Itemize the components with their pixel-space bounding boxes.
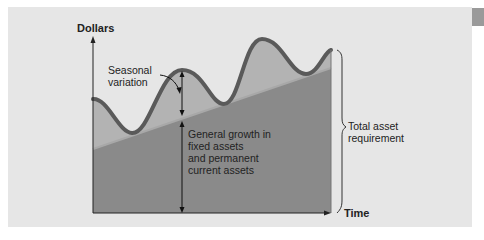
- y-axis-arrow-icon: [91, 36, 96, 43]
- brace-icon: [337, 50, 346, 213]
- y-axis-label: Dollars: [77, 22, 114, 34]
- total-asset-label: Total asset requirement: [348, 120, 404, 144]
- general-growth-label: General growth in fixed assets and perma…: [188, 128, 271, 176]
- asset-requirement-diagram: [0, 0, 484, 240]
- x-axis-label: Time: [344, 207, 369, 219]
- seasonal-variation-label: Seasonal variation: [108, 64, 152, 88]
